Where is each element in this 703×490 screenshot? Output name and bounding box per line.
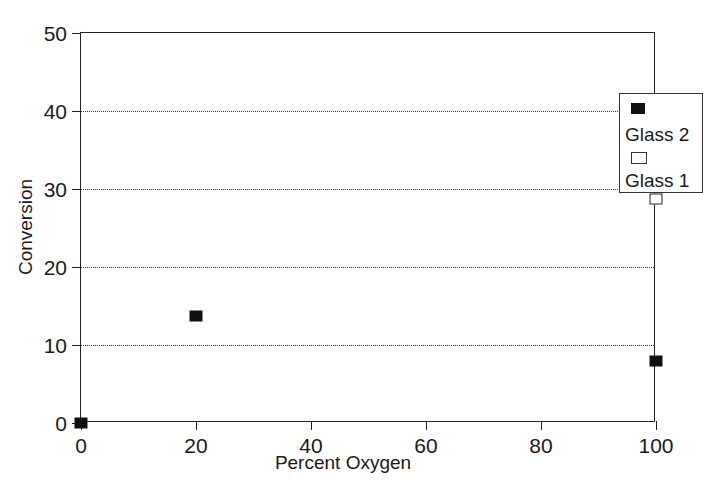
- x-tick-80: [541, 421, 542, 430]
- legend-swatch-filled-square-icon: [631, 103, 645, 114]
- x-tick-100: [656, 421, 657, 430]
- legend-label-glass-1: Glass 1: [625, 171, 689, 190]
- x-tick-20: [196, 421, 197, 430]
- plot-area: 01020304050 020406080100 Glass 2 Glass 1: [80, 32, 655, 422]
- y-tick-label-10: 10: [44, 335, 67, 356]
- gridline-y-20: [81, 267, 654, 268]
- y-tick-10: [72, 345, 81, 346]
- y-tick-50: [72, 33, 81, 34]
- data-point-glass-2-0: [75, 418, 88, 429]
- x-tick-40: [311, 421, 312, 430]
- data-point-glass-2-2: [650, 355, 663, 366]
- x-axis-title: Percent Oxygen: [0, 452, 686, 474]
- gridline-y-10: [81, 345, 654, 346]
- legend-label-glass-2: Glass 2: [625, 125, 689, 144]
- y-tick-40: [72, 111, 81, 112]
- y-tick-label-20: 20: [44, 257, 67, 278]
- y-tick-label-0: 0: [55, 413, 67, 434]
- data-point-glass-1-0: [650, 194, 663, 205]
- y-tick-label-50: 50: [44, 23, 67, 44]
- gridline-y-40: [81, 111, 654, 112]
- y-tick-label-40: 40: [44, 101, 67, 122]
- y-axis-title: Conversion: [15, 179, 37, 275]
- y-tick-label-30: 30: [44, 179, 67, 200]
- legend-box: Glass 2 Glass 1: [619, 93, 703, 193]
- x-tick-60: [426, 421, 427, 430]
- data-point-glass-2-1: [190, 311, 203, 322]
- gridline-y-30: [81, 189, 654, 190]
- y-tick-20: [72, 267, 81, 268]
- y-tick-30: [72, 189, 81, 190]
- legend-swatch-open-square-icon: [631, 152, 647, 164]
